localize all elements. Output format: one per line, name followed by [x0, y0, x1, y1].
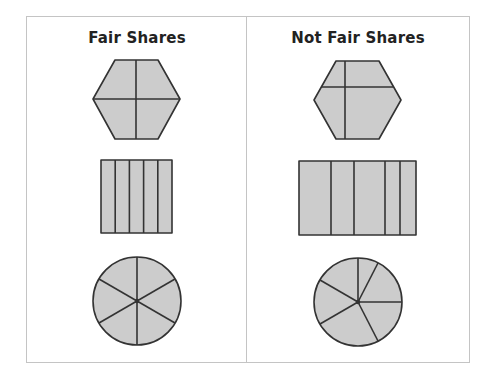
unfair-rectangle [299, 161, 416, 235]
fair-hexagon [93, 60, 180, 139]
shapes-canvas [0, 0, 493, 380]
unfair-circle [314, 258, 402, 346]
fair-circle [93, 257, 181, 345]
unfair-hexagon [314, 61, 401, 139]
fair-rectangle [101, 160, 172, 233]
